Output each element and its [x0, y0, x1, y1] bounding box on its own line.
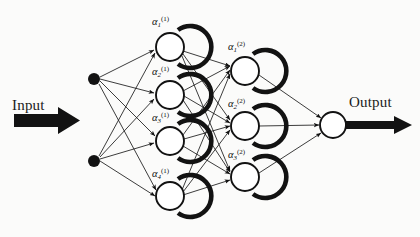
input-node-1 — [88, 73, 100, 85]
neuron-h2-2 — [231, 112, 259, 140]
edge — [259, 125, 319, 126]
neuron-h2-3 — [231, 163, 259, 191]
neuron-label-h2-3: α3(2) — [228, 149, 245, 162]
input-nodes — [88, 73, 100, 167]
neuron-label-h1-3: α3(1) — [152, 112, 169, 125]
label-superscript: (1) — [161, 111, 169, 119]
label-superscript: (2) — [237, 40, 245, 48]
network-graphic — [0, 0, 420, 237]
neuron-h1-1 — [156, 33, 184, 61]
edge — [99, 84, 156, 190]
edge — [100, 161, 155, 196]
edge — [100, 143, 154, 159]
neuron-label-h1-2: α2(1) — [152, 66, 169, 79]
output-label: Output — [349, 94, 392, 111]
neuron-h1-3 — [156, 127, 184, 155]
neuron-h1-2 — [156, 81, 184, 109]
hidden-layer-2-nodes — [231, 57, 259, 191]
neuron-h2-1 — [231, 57, 259, 85]
edge — [182, 74, 230, 190]
neuron-label-h1-1: α1(1) — [152, 16, 169, 29]
edge — [259, 133, 321, 173]
edge — [100, 50, 154, 77]
output-block-arrow — [346, 116, 412, 134]
input-label: Input — [12, 97, 45, 114]
figure-canvas: Input Output α1(1) α2(1) α3(1) α4(1) α1(… — [0, 0, 420, 237]
edge — [259, 75, 321, 118]
label-superscript: (1) — [161, 167, 169, 175]
edge — [100, 79, 154, 93]
label-superscript: (1) — [161, 65, 169, 73]
output-node-group — [320, 112, 346, 138]
neuron-label-h2-2: α2(2) — [228, 98, 245, 111]
neuron-output — [320, 112, 346, 138]
neuron-label-h1-4: α4(1) — [152, 168, 169, 181]
label-superscript: (1) — [161, 15, 169, 23]
neuron-h1-4 — [156, 182, 184, 210]
input-node-2 — [88, 155, 100, 167]
neuron-label-h2-1: α1(2) — [228, 41, 245, 54]
edges-input-to-hidden1 — [99, 50, 156, 196]
label-superscript: (2) — [237, 148, 245, 156]
edge — [99, 53, 155, 156]
label-superscript: (2) — [237, 97, 245, 105]
